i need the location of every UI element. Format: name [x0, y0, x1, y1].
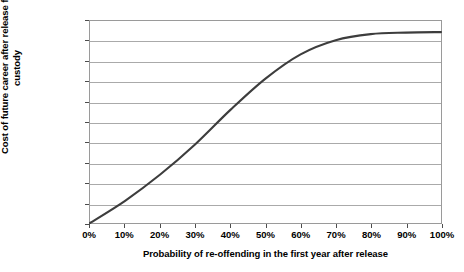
x-axis-tick-mark — [266, 224, 267, 228]
y-axis-title-line-2: custody — [11, 0, 23, 168]
x-axis-tick-mark — [195, 224, 196, 228]
x-axis-tick-mark — [230, 224, 231, 228]
cost-curve-path — [90, 32, 441, 223]
y-axis-title: Cost of future career after release from… — [0, 0, 29, 168]
x-axis-tick-mark — [160, 224, 161, 228]
x-axis-tick-mark — [124, 224, 125, 228]
x-axis-tick-mark — [336, 224, 337, 228]
plot-area — [89, 20, 442, 224]
y-axis-title-line-1: Cost of future career after release from — [0, 0, 11, 168]
x-axis-tick-mark — [371, 224, 372, 228]
x-axis-tick-mark — [407, 224, 408, 228]
x-axis-tick-mark — [442, 224, 443, 228]
x-axis-tick-mark — [89, 224, 90, 228]
x-axis-tick-label: 100% — [420, 229, 464, 240]
x-axis-tick-mark — [301, 224, 302, 228]
data-series-line — [90, 21, 441, 223]
x-axis-title: Probability of re-offending in the first… — [89, 248, 442, 259]
chart-figure: Cost of future career after release from… — [0, 0, 464, 272]
